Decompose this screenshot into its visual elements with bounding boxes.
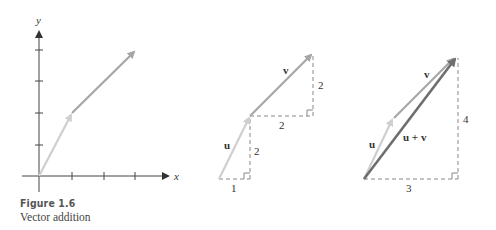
v-dy-label: 2	[318, 79, 324, 91]
u-dy-label: 2	[254, 145, 260, 157]
vector-u	[39, 115, 71, 176]
sum-dx-label: 3	[406, 182, 412, 194]
figure-number: Figure 1.6	[20, 197, 75, 210]
v-label: v	[283, 64, 289, 76]
vector-v	[72, 52, 134, 113]
u-label: u	[224, 139, 230, 151]
vector-addition-figure: x y u v 1 2 2 2 u v u + v 3 4	[0, 0, 496, 230]
vector-u-plus-v	[364, 59, 455, 179]
v-label: v	[424, 68, 430, 80]
u-label: u	[369, 138, 375, 150]
x-axis-arrow-icon	[162, 172, 170, 180]
u-dx-label: 1	[231, 182, 237, 194]
x-axis-label: x	[173, 170, 179, 182]
u-plus-v-label: u + v	[403, 131, 427, 143]
panel-axes: x y	[22, 14, 179, 192]
panel-resultant: u v u + v 3 4	[364, 58, 469, 194]
v-dx-label: 2	[279, 119, 285, 131]
y-axis-arrow-icon	[35, 30, 43, 38]
y-axis-label: y	[35, 14, 41, 26]
vector-v	[250, 55, 311, 116]
panel-components: u v 1 2 2 2	[219, 53, 324, 194]
figure-caption: Vector addition	[20, 211, 91, 223]
sum-dy-label: 4	[463, 113, 469, 125]
